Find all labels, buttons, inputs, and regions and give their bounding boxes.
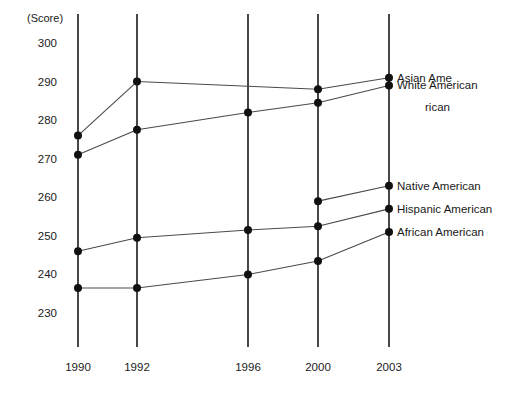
series-label-african-american: African American — [397, 226, 484, 238]
line-chart: (Score) 300290280270260250240230 1990199… — [0, 0, 509, 397]
data-point — [133, 234, 141, 242]
y-axis-tick-label: 280 — [38, 114, 57, 126]
x-axis-tick-label: 2000 — [305, 361, 331, 373]
y-axis-tick-label: 270 — [38, 153, 57, 165]
y-axis-tick-label: 290 — [38, 76, 57, 88]
series-label-continuation: rican — [425, 101, 450, 113]
chart-canvas: (Score) 300290280270260250240230 1990199… — [0, 0, 509, 397]
data-point — [385, 74, 393, 82]
y-axis-tick-label: 260 — [38, 191, 57, 203]
series-label-native-american: Native American — [397, 180, 481, 192]
x-axis-tick-label: 1992 — [124, 361, 150, 373]
data-point — [385, 228, 393, 236]
data-point — [244, 226, 252, 234]
data-point — [314, 99, 322, 107]
y-axis-tick-label: 300 — [38, 37, 57, 49]
data-point — [74, 132, 82, 140]
data-point — [244, 108, 252, 116]
y-axis-tick-label: 240 — [38, 268, 57, 280]
data-point — [385, 205, 393, 213]
data-point — [385, 81, 393, 89]
data-point — [74, 151, 82, 159]
data-point — [133, 284, 141, 292]
series-label-hispanic-american: Hispanic American — [397, 203, 492, 215]
y-axis-tick-label: 250 — [38, 230, 57, 242]
series-label-white-american: White American — [397, 79, 478, 91]
x-axis-tick-label: 1990 — [65, 361, 91, 373]
data-point — [314, 197, 322, 205]
data-point — [74, 284, 82, 292]
data-point — [314, 257, 322, 265]
data-point — [314, 222, 322, 230]
data-point — [314, 85, 322, 93]
y-axis-unit-label: (Score) — [27, 12, 63, 24]
data-point — [244, 270, 252, 278]
chart-background — [0, 0, 509, 397]
x-axis-tick-label: 1996 — [235, 361, 261, 373]
data-point — [74, 247, 82, 255]
data-point — [133, 78, 141, 86]
data-point — [133, 126, 141, 134]
data-point — [385, 182, 393, 190]
y-axis-tick-label: 230 — [38, 307, 57, 319]
x-axis-tick-label: 2003 — [376, 361, 402, 373]
